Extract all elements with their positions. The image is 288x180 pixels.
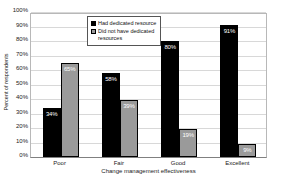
y-axis-tick-label: 60% — [16, 65, 28, 71]
bar-good-series-1: 80% — [161, 41, 179, 157]
bar-value-label: 9% — [239, 147, 255, 154]
x-axis-category-label: Good — [171, 160, 186, 167]
bar-chart: 34%65%58%39%80%19%91%9% 0%10%20%30%40%50… — [0, 0, 288, 180]
legend-item: Had dedicated resource — [91, 20, 157, 27]
bar-value-label: 80% — [162, 44, 178, 51]
bar-value-label: 91% — [221, 28, 237, 35]
legend: Had dedicated resourceDid not have dedic… — [87, 16, 161, 46]
legend-item-label: Had dedicated resource — [98, 20, 156, 27]
y-axis-tick-label: 10% — [16, 138, 28, 144]
bar-excellent-series-1: 91% — [220, 25, 238, 157]
y-axis-tick-label: 90% — [16, 22, 28, 28]
x-axis-category-label: Poor — [53, 160, 66, 167]
x-axis-category-labels: PoorFairGoodExcellent — [30, 160, 267, 168]
gridline — [31, 12, 266, 13]
legend-item-label: Did not have dedicated resources — [98, 28, 157, 42]
bar-value-label: 39% — [121, 103, 137, 110]
bar-poor-series-2: 65% — [61, 63, 79, 157]
bar-value-label: 58% — [103, 76, 119, 83]
bar-value-label: 65% — [62, 66, 78, 73]
legend-marker-icon — [91, 29, 96, 34]
x-axis-category-label: Excellent — [225, 160, 249, 167]
bar-good-series-2: 19% — [179, 129, 197, 157]
y-axis-tick-label: 80% — [16, 36, 28, 42]
legend-marker-icon — [91, 21, 96, 26]
bar-excellent-series-2: 9% — [238, 144, 256, 157]
bar-poor-series-1: 34% — [43, 108, 61, 157]
bar-fair-series-1: 58% — [102, 73, 120, 157]
y-axis-tick-label: 20% — [16, 123, 28, 129]
bar-value-label: 19% — [180, 132, 196, 139]
y-axis-tick-label: 40% — [16, 94, 28, 100]
y-axis-tick-label: 70% — [16, 51, 28, 57]
legend-item: Did not have dedicated resources — [91, 28, 157, 42]
y-axis-tick-label: 50% — [16, 80, 28, 86]
y-axis-tick-label: 30% — [16, 109, 28, 115]
bar-fair-series-2: 39% — [120, 100, 138, 157]
bar-value-label: 34% — [44, 111, 60, 118]
x-axis-category-label: Fair — [114, 160, 124, 167]
x-axis-title: Change management effectiveness — [30, 168, 267, 174]
y-axis-tick-label: 0% — [19, 152, 28, 158]
y-axis-tick-label: 100% — [13, 7, 28, 13]
y-axis-title: Percent of respondents — [3, 47, 11, 117]
